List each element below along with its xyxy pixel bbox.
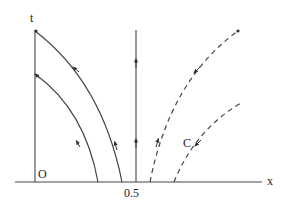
arrow-icon (156, 140, 158, 147)
outer-dashed-curve (150, 31, 238, 182)
endpoint-dot (236, 29, 239, 32)
characteristics-diagram: t x O 0.5 C (0, 0, 288, 204)
t-axis-label: t (30, 11, 34, 25)
arrow-icon (115, 143, 117, 150)
arrow-icon (77, 142, 80, 147)
tick-label-0.5: 0.5 (124, 186, 139, 200)
x-axis-label: x (267, 174, 273, 188)
origin-label: O (38, 167, 47, 181)
endpoint-dot (34, 29, 37, 32)
arrow-icon (195, 67, 200, 72)
arrow-icon (36, 75, 40, 78)
outer-solid-curve (35, 31, 122, 182)
curve-c-label: C (183, 136, 191, 150)
diagram-canvas: t x O 0.5 C (0, 0, 288, 204)
